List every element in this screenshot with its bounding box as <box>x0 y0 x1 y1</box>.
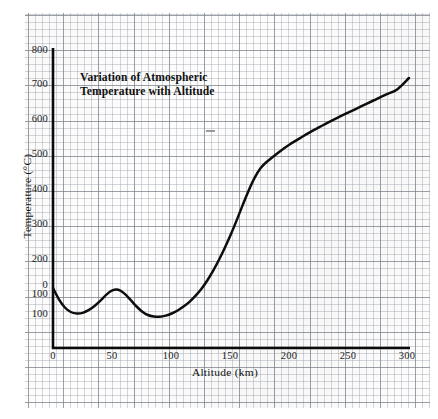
plot-area <box>0 0 438 419</box>
chart-page: 800 700 600 500 400 300 200 100 0 100 0 … <box>0 0 438 419</box>
temperature-curve <box>53 78 409 317</box>
